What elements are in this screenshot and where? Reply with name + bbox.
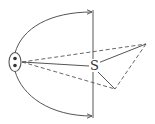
source-dot-bottom xyxy=(13,64,17,68)
line-s-to-apex xyxy=(98,44,146,63)
dashed-source-to-apex xyxy=(22,44,146,62)
source-dot-top xyxy=(13,57,17,61)
bottom-curved-arrow xyxy=(15,71,92,116)
source-ellipse xyxy=(9,53,21,72)
line-source-to-s xyxy=(22,62,89,66)
dashed-apex-to-lower xyxy=(115,44,146,89)
top-curved-arrow xyxy=(15,12,92,53)
diagram-canvas xyxy=(0,0,155,124)
s-label: S xyxy=(89,59,100,72)
